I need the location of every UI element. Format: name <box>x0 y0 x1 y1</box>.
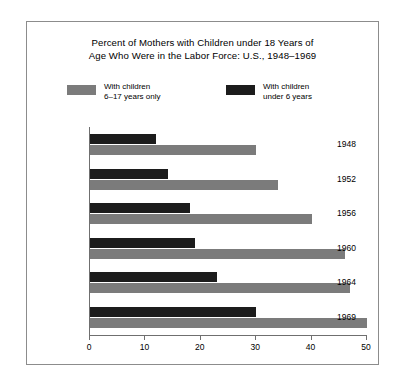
bar-children-under-6 <box>90 307 256 317</box>
chart-title: Percent of Mothers with Children under 1… <box>27 37 378 62</box>
x-axis-tick-label: 50 <box>354 342 378 352</box>
x-axis-tick-label: 10 <box>132 342 156 352</box>
x-axis-tick <box>366 335 367 340</box>
bar-children-under-6 <box>90 134 156 144</box>
bar-children-6-17 <box>90 318 367 328</box>
bar-children-6-17 <box>90 145 256 155</box>
legend-label-children-under-6-line-1: With children <box>263 82 309 91</box>
legend-item-children-under-6: With children under 6 years <box>226 82 312 102</box>
legend-label-children-under-6: With children under 6 years <box>263 82 312 102</box>
chart-title-line-1: Percent of Mothers with Children under 1… <box>27 37 378 50</box>
x-axis-tick-label: 0 <box>77 342 101 352</box>
bar-children-6-17 <box>90 283 350 293</box>
bar-children-under-6 <box>90 272 217 282</box>
y-axis-line <box>89 127 90 335</box>
chart-legend: With children 6–17 years only With child… <box>67 82 357 108</box>
legend-label-children-6-17-line-2: 6–17 years only <box>104 92 160 102</box>
x-axis-tick <box>311 335 312 340</box>
legend-swatch-black <box>226 85 255 95</box>
chart-figure: Percent of Mothers with Children under 1… <box>26 21 379 365</box>
bar-children-under-6 <box>90 169 168 179</box>
bar-children-6-17 <box>90 249 345 259</box>
x-axis-tick <box>144 335 145 340</box>
legend-item-children-6-17: With children 6–17 years only <box>67 82 160 102</box>
x-axis-line <box>89 335 366 336</box>
x-axis-tick-label: 30 <box>243 342 267 352</box>
plot-area: 194819521956196019641969 01020304050 <box>89 127 366 335</box>
bar-children-under-6 <box>90 238 195 248</box>
y-axis-label: 1952 <box>337 174 356 184</box>
x-axis-tick <box>255 335 256 340</box>
legend-label-children-6-17: With children 6–17 years only <box>104 82 160 102</box>
legend-swatch-gray <box>67 85 96 95</box>
legend-label-children-under-6-line-2: under 6 years <box>263 92 312 102</box>
x-axis-tick <box>200 335 201 340</box>
y-axis-label: 1948 <box>337 139 356 149</box>
x-axis-tick-label: 20 <box>188 342 212 352</box>
y-axis-label: 1960 <box>337 243 356 253</box>
y-axis-label: 1956 <box>337 208 356 218</box>
legend-label-children-6-17-line-1: With children <box>104 82 150 91</box>
bar-children-6-17 <box>90 214 312 224</box>
y-axis-label: 1969 <box>337 312 356 322</box>
x-axis-tick-label: 40 <box>299 342 323 352</box>
bar-children-under-6 <box>90 203 190 213</box>
x-axis-tick <box>89 335 90 340</box>
chart-title-line-2: Age Who Were in the Labor Force: U.S., 1… <box>27 50 378 63</box>
y-axis-label: 1964 <box>337 277 356 287</box>
bar-children-6-17 <box>90 180 278 190</box>
